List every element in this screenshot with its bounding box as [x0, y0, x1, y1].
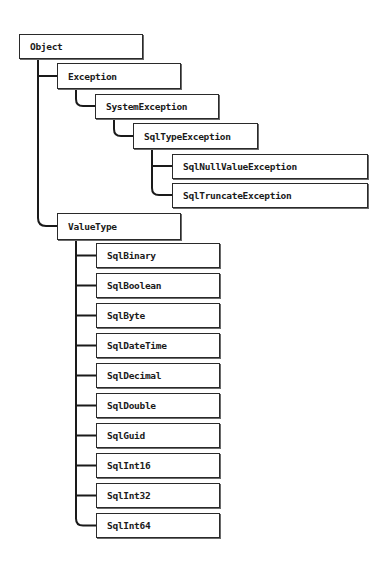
- node-sql-null-value-exception: SqlNullValueException: [172, 154, 368, 179]
- node-sqldecimal: SqlDecimal: [96, 363, 220, 388]
- node-sqlint64: SqlInt64: [96, 513, 220, 538]
- node-label: SqlInt64: [107, 520, 150, 531]
- node-label: SqlDouble: [107, 400, 156, 411]
- connector-exception-systemexception: [76, 89, 95, 106]
- node-sql-truncate-exception: SqlTruncateException: [172, 183, 368, 208]
- node-label: SqlNullValueException: [183, 161, 297, 172]
- node-label: Object: [30, 41, 63, 52]
- node-label: SqlTruncateException: [183, 190, 291, 201]
- valuetype-connectors: [76, 240, 96, 526]
- node-label: SystemException: [106, 101, 187, 112]
- node-sqldatetime: SqlDateTime: [96, 333, 220, 358]
- connector-systemexception-sqltypeexception: [114, 119, 133, 136]
- node-sqlint32: SqlInt32: [96, 483, 220, 508]
- node-label: SqlTypeException: [144, 131, 231, 142]
- node-system-exception: SystemException: [95, 94, 219, 119]
- node-sqlboolean: SqlBoolean: [96, 273, 220, 298]
- node-sqlbyte: SqlByte: [96, 303, 220, 328]
- node-exception: Exception: [57, 63, 181, 89]
- node-label: SqlBinary: [107, 250, 156, 261]
- connector-valuetype-sqlint64: [76, 240, 96, 526]
- connector-sqltypeexception-trunk: [152, 149, 172, 195]
- node-object: Object: [19, 34, 143, 59]
- node-value-type: ValueType: [57, 213, 181, 240]
- node-label: Exception: [68, 71, 117, 82]
- node-label: SqlInt32: [107, 490, 150, 501]
- node-label: SqlDateTime: [107, 340, 167, 351]
- node-sqlguid: SqlGuid: [96, 423, 220, 448]
- node-label: SqlInt16: [107, 460, 150, 471]
- node-label: SqlGuid: [107, 430, 145, 441]
- node-sqldouble: SqlDouble: [96, 393, 220, 418]
- node-sql-type-exception: SqlTypeException: [133, 123, 258, 149]
- node-label: SqlBoolean: [107, 280, 161, 291]
- class-hierarchy-diagram: Object Exception SystemException SqlType…: [0, 0, 384, 566]
- connector-object-trunk: [38, 59, 57, 226]
- node-label: SqlDecimal: [107, 370, 161, 381]
- node-label: SqlByte: [107, 310, 145, 321]
- node-sqlbinary: SqlBinary: [96, 243, 220, 268]
- node-sqlint16: SqlInt16: [96, 453, 220, 478]
- node-label: ValueType: [68, 221, 117, 232]
